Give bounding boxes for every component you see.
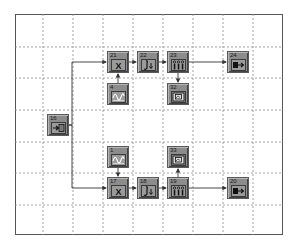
block-number-label: 17 [110, 178, 117, 185]
block-23-filter-bank[interactable]: 23 [167, 51, 189, 73]
block-number-label: 4 [110, 84, 113, 91]
diagram-canvas: 1621X22232443213317X181920 [0, 0, 297, 246]
block-number-label: 1 [110, 147, 113, 154]
sine-wave-icon [111, 154, 126, 166]
block-16-signal-source-input[interactable]: 16 [47, 114, 69, 136]
block-number-label: 19 [170, 178, 177, 185]
grid-and-wires [0, 0, 297, 246]
svg-text:X: X [115, 187, 121, 196]
multiply-icon: X [111, 59, 126, 71]
block-number-label: 23 [170, 52, 177, 59]
block-1-sine-generator[interactable]: 1 [107, 146, 129, 168]
block-number-label: 16 [50, 115, 57, 122]
scope-icon [171, 154, 186, 166]
output-arrow-icon [231, 185, 246, 197]
sine-wave-icon [111, 91, 126, 103]
block-number-label: 24 [230, 52, 237, 59]
connection-wire [69, 125, 106, 188]
integrator-icon [141, 59, 156, 71]
scope-icon [171, 91, 186, 103]
input-arrow-icon [51, 122, 66, 134]
block-4-sine-generator[interactable]: 4 [107, 83, 129, 105]
multiply-icon: X [111, 185, 126, 197]
block-number-label: 20 [230, 178, 237, 185]
svg-text:X: X [115, 61, 121, 70]
block-number-label: 22 [140, 52, 147, 59]
block-24-output[interactable]: 24 [227, 51, 249, 73]
block-21-multiplier[interactable]: 21X [107, 51, 129, 73]
block-number-label: 32 [170, 84, 177, 91]
bargraph-icon [171, 185, 186, 197]
integrator-icon [141, 185, 156, 197]
connection-wire [69, 62, 106, 125]
block-number-label: 33 [170, 147, 177, 154]
block-19-filter-bank[interactable]: 19 [167, 177, 189, 199]
block-20-output[interactable]: 20 [227, 177, 249, 199]
block-18-integrator[interactable]: 18 [137, 177, 159, 199]
block-number-label: 18 [140, 178, 147, 185]
block-17-multiplier[interactable]: 17X [107, 177, 129, 199]
bargraph-icon [171, 59, 186, 71]
block-33-display-scope[interactable]: 33 [167, 146, 189, 168]
block-22-integrator[interactable]: 22 [137, 51, 159, 73]
output-arrow-icon [231, 59, 246, 71]
block-32-display-scope[interactable]: 32 [167, 83, 189, 105]
wires [69, 62, 226, 188]
block-number-label: 21 [110, 52, 117, 59]
